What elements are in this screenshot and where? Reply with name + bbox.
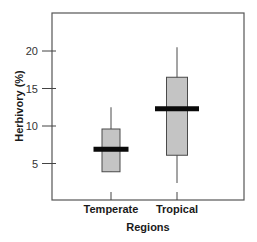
x-tick-label-tropical: Tropical xyxy=(156,203,198,215)
y-tick-label: 5 xyxy=(32,158,38,170)
x-tick-label-temperate: Temperate xyxy=(84,203,139,215)
median-bar xyxy=(94,147,129,152)
box-temperate xyxy=(94,107,129,172)
boxes xyxy=(94,47,200,183)
iqr-box xyxy=(167,77,188,155)
median-bar xyxy=(155,106,199,111)
box-plot-chart: 5101520 TemperateTropical Regions Herbiv… xyxy=(0,0,257,242)
x-axis-title: Regions xyxy=(126,221,169,233)
y-tick-label: 10 xyxy=(26,120,38,132)
y-tick-label: 20 xyxy=(26,45,38,57)
box-tropical xyxy=(155,47,199,183)
y-axis-title: Herbivory (%) xyxy=(13,70,25,142)
x-axis-ticks: TemperateTropical xyxy=(84,192,199,215)
y-tick-label: 15 xyxy=(26,83,38,95)
plot-frame xyxy=(52,13,244,200)
